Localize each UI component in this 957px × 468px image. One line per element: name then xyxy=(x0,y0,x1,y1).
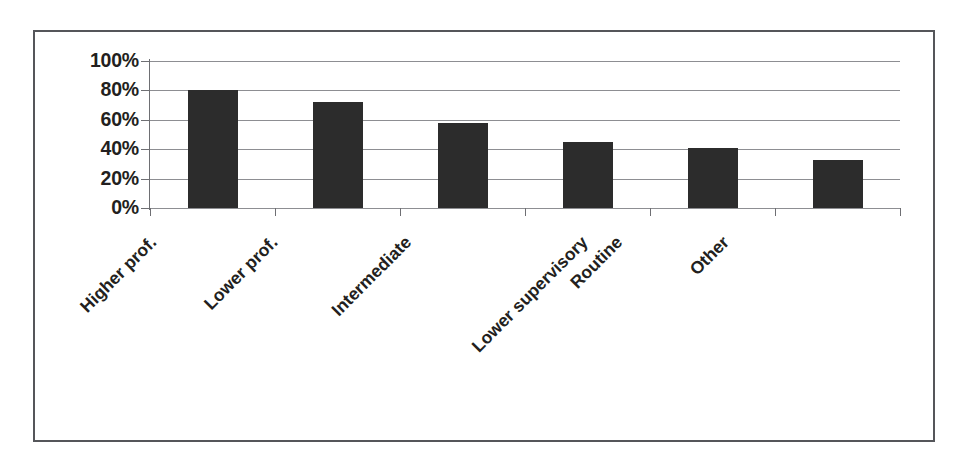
x-axis-label-lower-supervisory: Lower supervisory xyxy=(468,232,593,357)
bar-chart-figure: 100% 80% 60% 40% 20% 0% Higher prof. Low… xyxy=(0,0,957,468)
x-axis-label-higher-prof: Higher prof. xyxy=(76,232,161,317)
x-axis-label-intermediate: Intermediate xyxy=(327,232,415,320)
x-axis-label-lower-prof: Lower prof. xyxy=(200,232,282,314)
x-axis-label-other: Other xyxy=(686,232,734,280)
x-axis-tick-labels: Higher prof. Lower prof. Intermediate Lo… xyxy=(0,0,957,468)
